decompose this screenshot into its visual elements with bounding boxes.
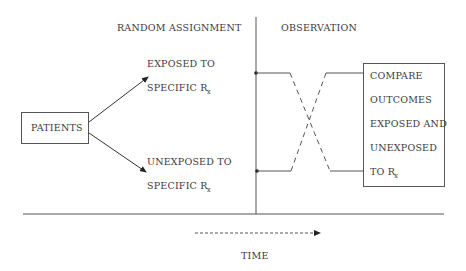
outcome-line-5: TO Rx	[370, 166, 398, 177]
header-observation: OBSERVATION	[281, 22, 357, 33]
exposed-line1: EXPOSED TO	[147, 58, 215, 69]
arrow-to-exposed	[89, 77, 148, 122]
time-label: TIME	[241, 250, 269, 261]
crossover-dashed-line	[291, 73, 326, 171]
unexposed-line2: SPECIFIC Rx	[147, 180, 211, 191]
unexposed-line1: UNEXPOSED TO	[147, 156, 232, 167]
outcome-line-2: OUTCOMES	[370, 94, 432, 105]
outcome-box: COMPARE OUTCOMES EXPOSED AND UNEXPOSED T…	[363, 63, 445, 187]
outcome-line-3: EXPOSED AND	[370, 118, 447, 129]
exposed-line2: SPECIFIC Rx	[147, 82, 211, 93]
crossover-dashed-line	[290, 73, 330, 171]
header-random-assignment: RANDOM ASSIGNMENT	[117, 22, 242, 33]
outcome-line-4: UNEXPOSED	[370, 142, 437, 153]
arrow-to-unexposed	[89, 133, 146, 172]
outcome-line-1: COMPARE	[370, 70, 423, 81]
patients-label: PATIENTS	[31, 122, 83, 133]
patients-box: PATIENTS	[21, 112, 89, 144]
